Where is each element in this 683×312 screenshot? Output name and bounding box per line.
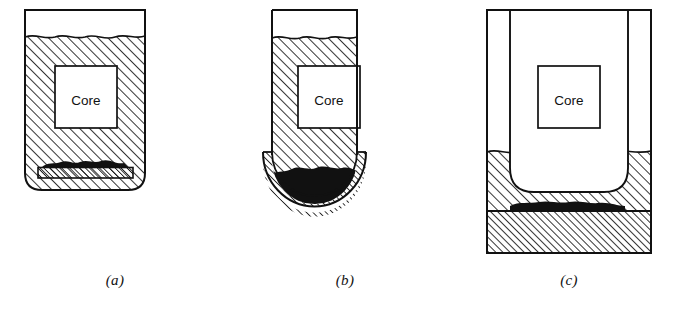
panel-caption-c: (c) xyxy=(455,272,683,289)
diagram-c-svg: Core xyxy=(455,0,683,265)
core-support-plate-a xyxy=(38,168,133,179)
panel-c: Core (c) xyxy=(455,0,683,312)
basemat-fill-c xyxy=(487,211,651,253)
figure-root: Core (a) xyxy=(0,0,683,312)
panel-a: Core (a) xyxy=(0,0,230,312)
core-label-b: Core xyxy=(314,93,343,108)
panel-caption-b: (b) xyxy=(230,272,460,289)
panel-b: Core (b) xyxy=(230,0,460,312)
core-label-a: Core xyxy=(71,93,100,108)
core-label-c: Core xyxy=(554,93,583,108)
diagram-b-svg: Core xyxy=(230,0,460,265)
panel-caption-a: (a) xyxy=(0,272,230,289)
diagram-a-svg: Core xyxy=(0,0,230,265)
